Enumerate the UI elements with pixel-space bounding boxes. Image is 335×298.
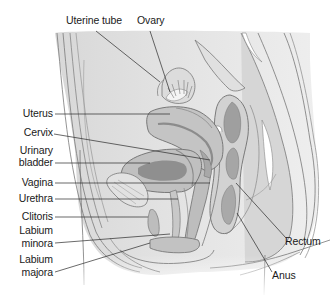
- label-uterine-tube: Uterine tube: [66, 15, 122, 26]
- label-urinary-bladder-line1: Urinary: [20, 145, 53, 156]
- label-labium-minora-line1: Labium: [19, 225, 53, 236]
- label-clitoris: Clitoris: [22, 211, 53, 222]
- label-urethra: Urethra: [19, 193, 53, 204]
- label-rectum: Rectum: [285, 236, 321, 247]
- label-uterus: Uterus: [23, 108, 53, 119]
- label-labium-majora-line2: majora: [22, 267, 54, 278]
- label-anus: Anus: [272, 270, 296, 281]
- label-labium-minora-line2: minora: [22, 238, 54, 249]
- label-ovary: Ovary: [137, 15, 165, 26]
- anatomy-figure: Uterine tube Ovary Uterus Cervix Urinary…: [0, 0, 335, 298]
- label-cervix: Cervix: [24, 127, 53, 138]
- label-urinary-bladder-line2: bladder: [19, 157, 53, 168]
- label-vagina: Vagina: [22, 177, 53, 188]
- label-labium-majora-line1: Labium: [19, 254, 53, 265]
